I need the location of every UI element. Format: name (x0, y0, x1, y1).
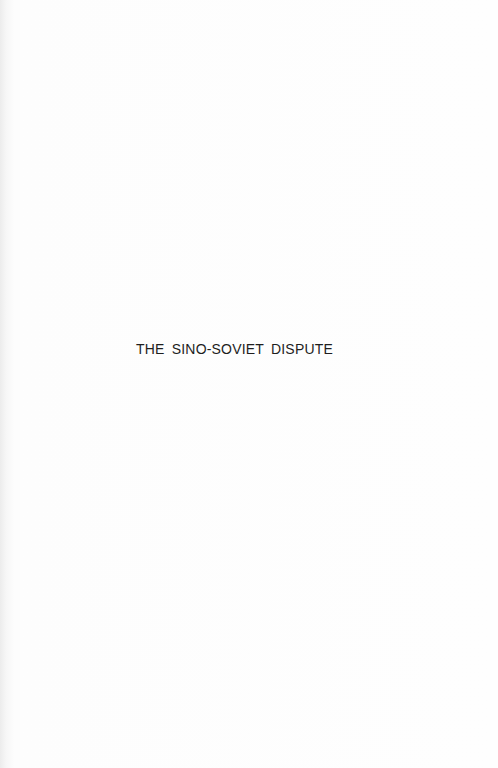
book-page: THE SINO-SOVIET DISPUTE (0, 0, 498, 768)
half-title: THE SINO-SOVIET DISPUTE (136, 341, 333, 357)
